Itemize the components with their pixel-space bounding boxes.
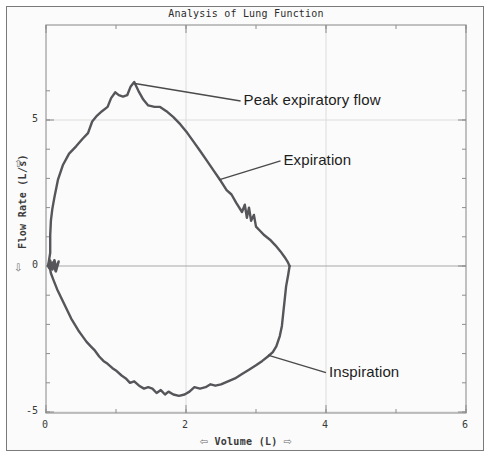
leader-line-1 bbox=[219, 161, 281, 180]
annotation-expiration: Expiration bbox=[284, 151, 352, 168]
axis-lines bbox=[46, 25, 466, 413]
annotation-inspiration: Inspiration bbox=[329, 363, 399, 380]
annotation-leader-lines bbox=[135, 84, 326, 373]
flow-volume-loop-plot bbox=[0, 0, 492, 459]
x-tick-label-4: 4 bbox=[322, 419, 328, 430]
x-tick-label-6: 6 bbox=[462, 419, 468, 430]
x-tick-label-2: 2 bbox=[182, 419, 188, 430]
curve-inspiratory bbox=[50, 266, 290, 396]
x-tick-label-0: 0 bbox=[42, 419, 48, 430]
axis-ticks bbox=[46, 25, 466, 413]
leader-line-0 bbox=[135, 84, 241, 102]
lung-function-chart-page: Analysis of Lung Function Flow Rate (L/s… bbox=[0, 0, 492, 459]
gridlines bbox=[46, 25, 466, 413]
annotation-peak-expiratory-flow: Peak expiratory flow bbox=[244, 91, 381, 108]
leader-line-2 bbox=[268, 355, 326, 373]
curve-expiratory bbox=[48, 82, 290, 266]
y-tick-label-neg5: -5 bbox=[26, 405, 38, 416]
y-tick-label-0: 0 bbox=[32, 259, 38, 270]
y-tick-label-5: 5 bbox=[32, 113, 38, 124]
flow-volume-curves bbox=[48, 82, 290, 396]
